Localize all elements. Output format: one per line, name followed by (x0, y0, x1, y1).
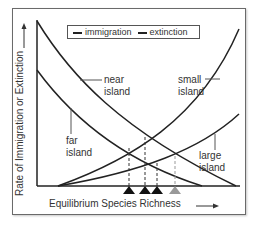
label-small-line2: island (178, 86, 204, 98)
marker-triangle-1 (123, 186, 135, 194)
marker-triangle-3 (151, 186, 163, 194)
legend-swatch-immigration (73, 32, 82, 34)
label-large-line1: large (199, 150, 225, 162)
legend-label-extinction: extinction (150, 27, 188, 37)
label-near-line2: island (104, 86, 130, 98)
marker-triangle-4 (169, 186, 181, 194)
label-near-island: near island (104, 74, 130, 98)
legend-swatch-extinction (138, 32, 147, 34)
label-large-line2: island (199, 162, 225, 174)
x-arrowhead-icon (213, 204, 219, 209)
y-arrowhead-icon (22, 23, 27, 29)
label-small-line1: small (178, 74, 204, 86)
label-far-line1: far (66, 135, 92, 147)
y-axis-label: Rate of Immigration or Extinction (14, 51, 25, 196)
x-axis-label: Equilibrium Species Richness (49, 198, 181, 209)
label-far-island: far island (66, 135, 92, 159)
label-large-island: large island (199, 150, 225, 174)
legend-label-immigration: immigration (85, 27, 132, 37)
legend-item-immigration: immigration (73, 27, 132, 37)
legend: immigration extinction (67, 25, 200, 39)
marker-triangle-2 (139, 186, 151, 194)
legend-item-extinction: extinction (138, 27, 188, 37)
label-near-line1: near (104, 74, 130, 86)
label-far-line2: island (66, 147, 92, 159)
label-small-island: small island (178, 74, 204, 98)
